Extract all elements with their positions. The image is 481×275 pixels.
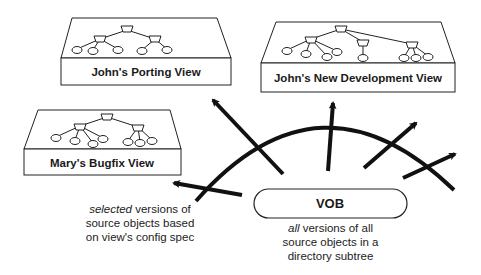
vob-container: VOB [254,189,407,218]
porting-view-box: John's Porting View [61,18,231,85]
caption-emphasis: all [288,222,300,234]
caption-text: versions of [132,203,191,215]
arrow-to-bugfix [174,183,242,195]
arrow-to-porting [213,100,283,174]
porting-view-label: John's Porting View [91,66,200,78]
caption-emphasis: selected [89,203,132,215]
caption-text: source objects in a [255,235,406,249]
selected-versions-caption: selected versions of source objects base… [52,202,228,244]
caption-text: on view's config spec [52,230,228,244]
new-dev-view-label: John's New Development View [274,72,442,84]
arrow-right-1 [364,123,416,168]
vob-caption: all versions of all source objects in a … [255,221,406,263]
arrow-to-new-dev [328,103,333,171]
caption-text: source objects based [52,216,228,230]
caption-text: directory subtree [255,249,406,263]
bugfix-view-box: Mary's Bugfix View [24,110,181,175]
arrow-right-2 [403,154,455,178]
bugfix-view-label: Mary's Bugfix View [50,157,154,169]
vob-label: VOB [316,196,344,211]
caption-text: versions of all [300,222,374,234]
new-dev-view-box: John's New Development View [261,22,455,92]
